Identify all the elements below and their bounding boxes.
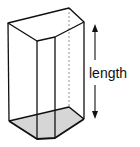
arrow-up-icon <box>92 24 98 32</box>
length-label: length <box>89 65 127 81</box>
prism-top-face <box>8 8 84 41</box>
arrow-down-icon <box>92 111 98 119</box>
vertical-edge-left <box>8 23 9 121</box>
prism-diagram: length <box>0 0 140 147</box>
